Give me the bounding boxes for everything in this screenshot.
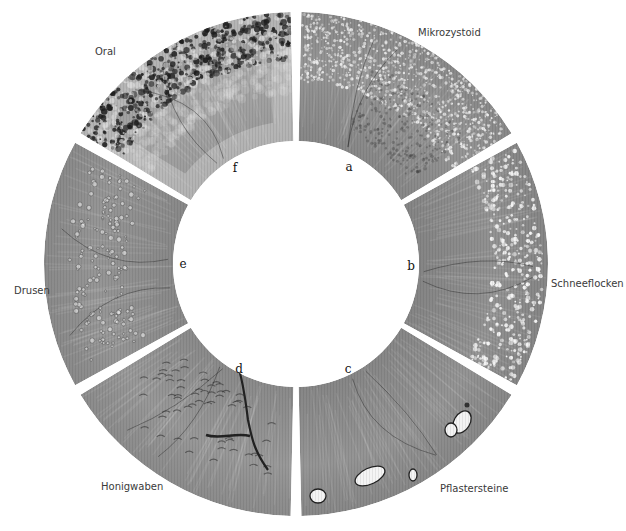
letter-a: a xyxy=(345,160,352,174)
label-mikrozystoid: Mikrozystoid xyxy=(418,27,481,38)
label-honigwaben: Honigwaben xyxy=(101,481,163,492)
letter-f: f xyxy=(233,161,237,175)
label-drusen: Drusen xyxy=(14,285,50,296)
segmented-ring-diagram xyxy=(0,0,626,531)
label-pflastersteine: Pflastersteine xyxy=(440,483,508,494)
label-oral: Oral xyxy=(95,46,116,57)
label-schneeflocken: Schneeflocken xyxy=(551,278,624,289)
letter-c: c xyxy=(345,362,352,376)
letter-b: b xyxy=(407,259,415,273)
letter-d: d xyxy=(235,362,243,376)
letter-e: e xyxy=(179,257,186,271)
retinal-degeneration-ring-figure: Mikrozystoid Schneeflocken Pflasterstein… xyxy=(0,0,626,531)
